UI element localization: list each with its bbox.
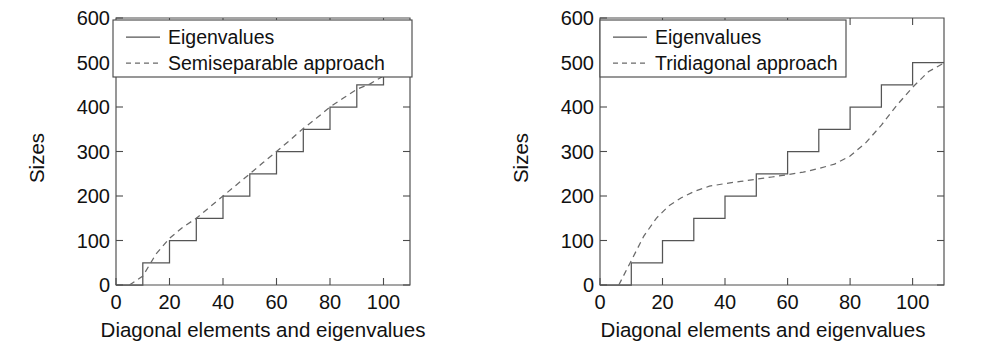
legend-label-approach: Tridiagonal approach [655, 52, 837, 74]
y-axis-title: Sizes [509, 133, 532, 183]
y-axis-title: Sizes [25, 133, 48, 183]
x-tick-label: 0 [594, 291, 605, 313]
x-tick-label: 40 [714, 291, 736, 313]
x-tick-label: 100 [367, 291, 400, 313]
legend-label-eigenvalues: Eigenvalues [655, 26, 761, 48]
x-tick-label: 20 [158, 291, 180, 313]
series-eigenvalues-step [116, 63, 410, 286]
series-semiseparable-approx [129, 61, 410, 285]
y-tick-label: 100 [561, 230, 594, 252]
y-tick-label: 200 [561, 185, 594, 207]
series-eigenvalues-step [600, 63, 944, 286]
x-tick-label: 20 [651, 291, 673, 313]
y-tick-label: 200 [77, 185, 110, 207]
x-tick-label: 60 [776, 291, 798, 313]
y-tick-label: 400 [561, 96, 594, 118]
y-tick-label: 500 [77, 52, 110, 74]
left-y-tick-labels: 0 100 200 300 400 500 600 [77, 7, 110, 296]
x-tick-label: 0 [110, 291, 121, 313]
left-panel: 0 100 200 300 400 500 600 0 20 40 60 80 … [0, 0, 497, 362]
legend-label-approach: Semiseparable approach [168, 52, 385, 74]
right-plot-svg: 0 100 200 300 400 500 600 0 20 40 60 80 … [498, 0, 995, 362]
left-plot-svg: 0 100 200 300 400 500 600 0 20 40 60 80 … [0, 0, 497, 362]
x-axis-title: Diagonal elements and eigenvalues [101, 318, 426, 341]
right-panel: 0 100 200 300 400 500 600 0 20 40 60 80 … [498, 0, 995, 362]
x-tick-label: 60 [265, 291, 287, 313]
right-y-tick-labels: 0 100 200 300 400 500 600 [561, 7, 594, 296]
y-tick-label: 600 [77, 7, 110, 29]
y-tick-label: 300 [77, 141, 110, 163]
x-tick-label: 80 [839, 291, 861, 313]
y-tick-label: 100 [77, 230, 110, 252]
y-tick-label: 0 [99, 274, 110, 296]
figure-container: 0 100 200 300 400 500 600 0 20 40 60 80 … [0, 0, 995, 362]
x-axis-title: Diagonal elements and eigenvalues [601, 318, 926, 341]
x-tick-label: 100 [896, 291, 929, 313]
y-tick-label: 600 [561, 7, 594, 29]
left-x-tick-labels: 0 20 40 60 80 100 [110, 291, 400, 313]
right-x-tick-labels: 0 20 40 60 80 100 [594, 291, 929, 313]
legend-label-eigenvalues: Eigenvalues [168, 26, 274, 48]
y-tick-label: 400 [77, 96, 110, 118]
right-legend: Eigenvalues Tridiagonal approach [600, 20, 846, 77]
left-legend: Eigenvalues Semiseparable approach [113, 20, 412, 77]
y-tick-label: 500 [561, 52, 594, 74]
x-tick-label: 40 [212, 291, 234, 313]
x-tick-label: 80 [319, 291, 341, 313]
y-tick-label: 0 [583, 274, 594, 296]
y-tick-label: 300 [561, 141, 594, 163]
